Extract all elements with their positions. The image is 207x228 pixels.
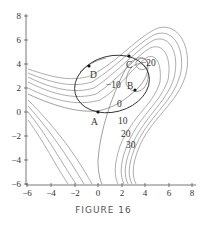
contour-label-30: 30 (126, 140, 136, 150)
label-d: D (90, 70, 97, 80)
contour-label-neg20: −20 (141, 58, 156, 68)
contour-label-neg10: −10 (106, 80, 121, 90)
point-b (133, 88, 136, 91)
contour-label-10: 10 (118, 116, 128, 126)
x-tick-label: −6 (22, 188, 32, 198)
x-tick-label: 0 (96, 188, 101, 198)
contour-plot: −6 −4 −2 0 2 4 6 8 8 6 4 2 0 −2 −4 −6 (0, 0, 207, 228)
y-tick-label: 2 (17, 83, 22, 93)
label-c: C (126, 60, 132, 70)
contour-lines (28, 27, 188, 184)
point-a (96, 110, 99, 113)
y-tick-label: 0 (17, 107, 22, 117)
y-tick-labels: 8 6 4 2 0 −2 −4 −6 (11, 11, 21, 189)
contour-label-20: 20 (121, 129, 131, 139)
point-d (87, 64, 90, 67)
x-tick-label: 4 (143, 188, 148, 198)
axes (24, 14, 196, 187)
figure-caption: FIGURE 16 (0, 205, 207, 215)
x-tick-label: 6 (167, 188, 172, 198)
label-a: A (91, 117, 98, 127)
y-tick-label: 8 (17, 11, 22, 21)
x-tick-label: 8 (190, 188, 195, 198)
contour-figure: −6 −4 −2 0 2 4 6 8 8 6 4 2 0 −2 −4 −6 (0, 0, 207, 228)
y-tick-label: 4 (17, 59, 22, 69)
x-tick-labels: −6 −4 −2 0 2 4 6 8 (22, 188, 195, 198)
y-tick-label: −6 (11, 179, 21, 189)
x-tick-label: −2 (70, 188, 80, 198)
label-b: B (127, 81, 133, 91)
x-tick-label: −4 (46, 188, 56, 198)
y-tick-label: −2 (11, 131, 21, 141)
x-tick-label: 2 (120, 188, 125, 198)
contour-label-0: 0 (117, 99, 122, 109)
point-c (127, 54, 130, 57)
y-tick-label: −4 (11, 155, 21, 165)
y-tick-label: 6 (17, 35, 22, 45)
